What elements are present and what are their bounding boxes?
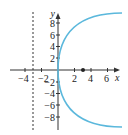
x-tick-label: 2 — [72, 73, 77, 84]
focus-point — [81, 68, 85, 72]
y-tick-label: −8 — [44, 112, 55, 123]
x-tick-label: −4 — [18, 73, 29, 84]
x-tick-label: 4 — [88, 73, 93, 84]
x-axis-label: x — [114, 72, 120, 83]
y-axis-arrow-icon — [56, 13, 61, 19]
parabola-plot: −4 −2 2 4 6 x y 8 6 4 2 −2 −4 −6 −8 — [0, 0, 128, 135]
y-tick-label: −2 — [44, 77, 55, 88]
y-tick-label: 2 — [50, 53, 55, 64]
y-tick-label: −4 — [44, 88, 55, 99]
y-tick-label: −6 — [44, 100, 55, 111]
y-tick-label: 8 — [50, 18, 55, 29]
y-tick-label: 4 — [50, 41, 55, 52]
x-tick-label: 6 — [104, 73, 109, 84]
y-tick-label: 6 — [50, 30, 55, 41]
